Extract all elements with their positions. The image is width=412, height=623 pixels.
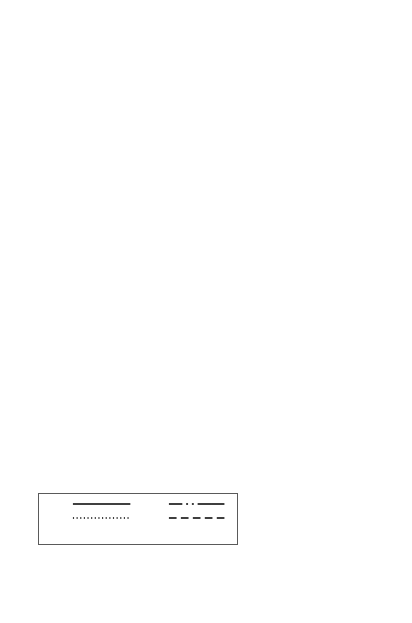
legend-item-60	[138, 513, 234, 523]
legend-item-20	[42, 513, 138, 523]
legend-swatch-solid	[71, 499, 138, 509]
legend-swatch-dash-dot-dot	[167, 499, 234, 509]
chart-title-case-1b	[0, 330, 412, 341]
plot-area-case-1b	[0, 325, 412, 593]
legend-title	[39, 494, 237, 496]
plot-area-case-3b	[0, 48, 412, 310]
chart-title-case-id-3b	[207, 53, 210, 64]
legend-swatch-dotted	[71, 513, 138, 523]
legend-entries	[39, 497, 237, 525]
legend-swatch-dashed	[167, 513, 234, 523]
chart-panel-case-3b	[0, 48, 412, 310]
legend-row	[39, 497, 237, 511]
chart-panel-case-1b	[0, 325, 412, 593]
legend	[38, 493, 238, 545]
legend-item-0	[42, 499, 138, 509]
figure-root	[0, 0, 412, 623]
chart-title-case-3b	[0, 53, 412, 64]
legend-row	[39, 511, 237, 525]
legend-item-40	[138, 499, 234, 509]
